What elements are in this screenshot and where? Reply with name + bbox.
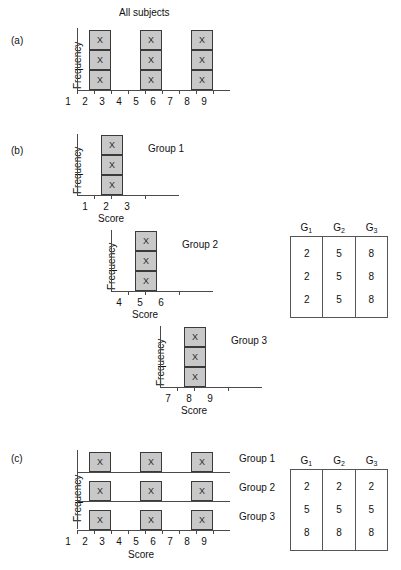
panel-a-tick-5 [145,90,146,94]
panel-c-ticklabel-3: 3 [96,536,108,547]
panel-b-g1-xlabel: Score [98,213,124,224]
panel-a-ticklabel-1: 1 [62,96,74,107]
panel-c-g3-cell: X [191,510,213,530]
panel-a-tick-7 [179,90,180,94]
panel-c-tick-9 [213,530,214,534]
panel-b-g2-cell: X [135,231,157,251]
panel-b-label: (b) [11,145,23,156]
panel-b-g3-xaxis [160,387,262,388]
panel-a-cell: X [191,70,213,90]
panel-c-tick-3 [111,530,112,534]
panel-c-ticklabel-6: 6 [147,536,159,547]
panel-b-g2-cell: X [135,251,157,271]
panel-b-header-g2: G2 [323,222,356,233]
panel-a-tick-3 [111,90,112,94]
panel-b-g2-ticklabel-3: 6 [155,297,167,308]
panel-a-tick-4 [128,90,129,94]
panel-c-g1-cell: X [140,452,162,472]
table-cell: 2 [304,295,310,305]
panel-c-ticklabel-2: 2 [79,536,91,547]
panel-b-g1-ticklabel-1: 1 [79,201,91,212]
panel-c-tick-7 [179,530,180,534]
panel-b-g1-tick-2 [111,195,112,199]
panel-c-g3-cell: X [140,510,162,530]
panel-b-g3-cell: X [184,327,206,347]
panel-a-cell: X [89,50,111,70]
panel-a-yaxis [77,28,78,90]
table-cell: 2 [304,482,310,492]
panel-b-table-column-g1: 2 2 2 [291,237,322,317]
panel-c-header-g2: G2 [323,455,356,466]
panel-b-g2-cell: X [135,271,157,291]
panel-c-table-column-g3: 2 5 8 [355,470,387,550]
panel-b-g2-yaxis [111,230,112,291]
panel-c-ticklabel-9: 9 [198,536,210,547]
table-cell: 2 [304,272,310,282]
panel-c-tick-1 [77,530,78,534]
panel-b-header-g1: G1 [290,222,323,233]
panel-b-g3-yaxis [160,326,161,387]
table-cell: 5 [336,249,342,259]
panel-c-group-2-label: Group 2 [239,482,275,493]
panel-a-title: All subjects [119,7,170,18]
panel-c-header-g3: G3 [355,455,388,466]
table-cell: 8 [369,249,375,259]
panel-b-g3-cell: X [184,367,206,387]
panel-b-g1-xaxis [77,195,179,196]
panel-b-g3-ticklabel-1: 7 [162,393,174,404]
panel-a-tick-6 [162,90,163,94]
panel-a-cell: X [89,30,111,50]
panel-a-tick-2 [94,90,95,94]
table-cell: 8 [369,295,375,305]
panel-a-cell: X [191,50,213,70]
panel-a-ticklabel-8: 8 [181,96,193,107]
panel-a-cell: X [89,70,111,90]
panel-a-tick-9 [213,90,214,94]
panel-a-cell: X [140,70,162,90]
panel-a-xaxis [77,90,230,91]
panel-a-cell: X [140,50,162,70]
panel-a-label: (a) [11,35,23,46]
table-cell: 5 [336,505,342,515]
panel-b-g3-cell: X [184,347,206,367]
panel-c-tick-8 [196,530,197,534]
panel-c-g2-cell: X [140,481,162,501]
panel-b-group-2-label: Group 2 [182,239,218,250]
table-cell: 5 [369,505,375,515]
panel-b-g1-tick-1 [94,195,95,199]
panel-c-g2-cell: X [89,481,111,501]
panel-c-ticklabel-4: 4 [113,536,125,547]
panel-a-ticklabel-6: 6 [147,96,159,107]
panel-a-cell: X [191,30,213,50]
panel-b-header-g3: G3 [355,222,388,233]
table-cell: 8 [336,528,342,538]
figure-root: (a) All subjects Frequency 1 2 3 4 5 6 7… [0,0,401,570]
panel-c-header-g1: G1 [290,455,323,466]
panel-c-ticklabel-5: 5 [130,536,142,547]
panel-c-ticklabel-7: 7 [164,536,176,547]
panel-a-ticklabel-4: 4 [113,96,125,107]
panel-b-g1-yaxis [77,134,78,195]
panel-c-table-column-g1: 2 5 8 [291,470,322,550]
table-cell: 2 [336,482,342,492]
table-cell: 5 [304,505,310,515]
panel-c-table-header: G1 G2 G3 [290,455,388,466]
panel-b-g3-tick-3 [228,387,229,391]
panel-c-label: (c) [11,453,23,464]
panel-b-g1-cell: X [101,155,123,175]
panel-a-ticklabel-9: 9 [198,96,210,107]
panel-b-g1-cell: X [101,175,123,195]
panel-a-ticklabel-2: 2 [79,96,91,107]
panel-c-table-column-g2: 2 5 8 [322,470,354,550]
panel-b-table-header: G1 G2 G3 [290,222,388,233]
panel-a-tick-1 [77,90,78,94]
panel-c-yaxis [77,450,78,529]
panel-c-tick-4 [128,530,129,534]
panel-c-g1-cell: X [89,452,111,472]
panel-b-g3-xlabel: Score [181,405,207,416]
panel-c-tick-5 [145,530,146,534]
panel-b-g2-ticklabel-2: 5 [134,297,146,308]
panel-b-g3-ticklabel-2: 8 [183,393,195,404]
panel-c-group-1-label: Group 1 [239,453,275,464]
panel-a-ticklabel-7: 7 [164,96,176,107]
